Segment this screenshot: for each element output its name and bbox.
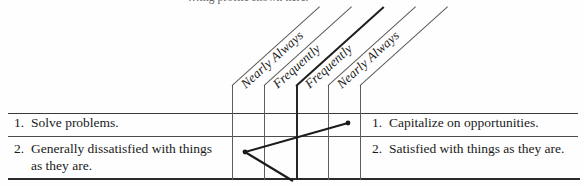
right-item-number: 2. — [372, 140, 389, 157]
scale-vline-4 — [328, 85, 329, 180]
scale-vline-5 — [360, 85, 361, 180]
right-item-list: 1. Capitalize on opportunities. 2. Satis… — [372, 114, 578, 157]
left-item-list: 1. Solve problems. 2. Generally dissatis… — [14, 114, 224, 174]
scale-vline-3 — [296, 85, 298, 180]
figure-caption: …ing profile shown here. — [188, 0, 309, 3]
rule-bottom — [8, 178, 580, 180]
left-list-item: 2. Generally dissatisfied with things as… — [14, 137, 224, 174]
scale-vline-2 — [264, 85, 265, 180]
right-list-item: 1. Capitalize on opportunities. — [372, 114, 578, 137]
left-list-item: 1. Solve problems. — [14, 114, 224, 137]
profile-point — [346, 121, 351, 126]
profile-point — [243, 150, 248, 155]
right-item-text: Capitalize on opportunities. — [389, 114, 578, 131]
right-item-text: Satisfied with things as they are. — [389, 140, 578, 157]
right-list-item: 2. Satisfied with things as they are. — [372, 137, 578, 157]
left-item-number: 2. — [14, 140, 31, 157]
figure-canvas: …ing profile shown here. Nearly Always F… — [0, 0, 586, 187]
caption-clip: …ing profile shown here. — [0, 0, 586, 8]
left-item-text: Solve problems. — [31, 114, 224, 131]
right-item-number: 1. — [372, 114, 389, 131]
left-item-number: 1. — [14, 114, 31, 131]
scale-vline-1 — [232, 85, 233, 180]
left-item-text: Generally dissatisfied with things as th… — [31, 140, 224, 174]
